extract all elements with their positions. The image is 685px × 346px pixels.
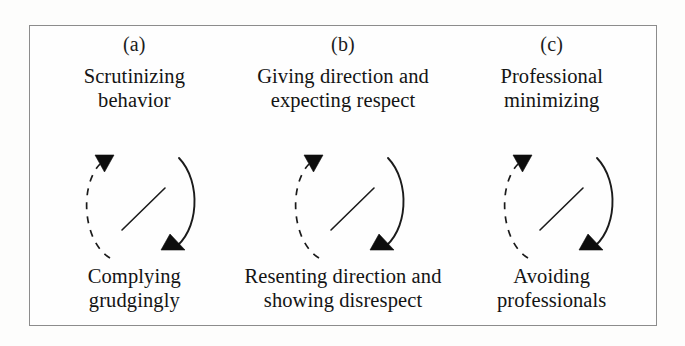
panel-a: (a) Scrutinizing behavior Complying grud…: [30, 26, 239, 325]
dashed-arc-upward: [296, 164, 319, 258]
panel-letter-b: (b): [331, 34, 355, 55]
diagonal-slash-line: [540, 188, 583, 230]
panel-c-bottom-label: Avoiding professionals: [447, 265, 656, 313]
panel-b: (b) Giving direction and expecting respe…: [239, 26, 448, 325]
panel-a-cycle-diagram: [69, 146, 199, 261]
dashed-arc-arrowhead-down-icon: [95, 155, 114, 172]
cycle-arrows-svg: [487, 146, 617, 261]
diagonal-slash-line: [122, 188, 165, 230]
figure-border: (a) Scrutinizing behavior Complying grud…: [29, 25, 657, 326]
panel-b-top-label: Giving direction and expecting respect: [257, 65, 429, 113]
cycle-arrows-svg: [278, 146, 408, 261]
solid-arc-downward: [591, 158, 613, 249]
solid-arc-downward: [173, 158, 195, 249]
dashed-arc-upward: [87, 164, 110, 258]
panel-a-bottom-label: Complying grudgingly: [30, 265, 239, 313]
dashed-arc-upward: [504, 164, 527, 258]
dashed-arc-arrowhead-down-icon: [513, 155, 532, 172]
solid-arc-downward: [382, 158, 404, 249]
panel-b-cycle-diagram: [278, 146, 408, 261]
panel-c-cycle-diagram: [487, 146, 617, 261]
panel-a-top-label: Scrutinizing behavior: [84, 65, 185, 113]
diagonal-slash-line: [331, 188, 374, 230]
panel-b-bottom-label: Resenting direction and showing disrespe…: [239, 265, 448, 313]
cycle-arrows-svg: [69, 146, 199, 261]
panel-letter-c: (c): [540, 34, 563, 55]
panel-row: (a) Scrutinizing behavior Complying grud…: [30, 26, 656, 325]
panel-letter-a: (a): [123, 34, 146, 55]
panel-c: (c) Professional minimizing Avoiding pro…: [447, 26, 656, 325]
dashed-arc-arrowhead-down-icon: [304, 155, 323, 172]
panel-c-top-label: Professional minimizing: [500, 65, 603, 113]
